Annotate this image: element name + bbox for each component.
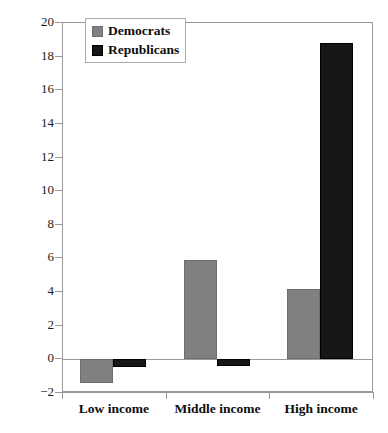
y-tick-mark (55, 291, 62, 292)
y-tick-label: 20 (18, 14, 54, 30)
x-axis-label-middle-income: Middle income (158, 401, 278, 417)
y-tick-mark (55, 157, 62, 158)
x-axis-separator (269, 392, 270, 399)
x-axis-line (62, 392, 373, 393)
y-tick-label: 0 (18, 350, 54, 366)
y-tick-label: 4 (18, 283, 54, 299)
y-tick-mark (55, 22, 62, 23)
y-tick-mark (55, 257, 62, 258)
plot-area (62, 22, 373, 392)
y-tick-label: 14 (18, 115, 54, 131)
y-tick-label: −2 (18, 384, 54, 400)
x-axis-label-high-income: High income (261, 401, 381, 417)
y-tick-label: 6 (18, 249, 54, 265)
bar-chart: Responsiveness (regression estimate) 201… (0, 0, 388, 433)
legend-swatch-democrats-icon (92, 26, 103, 37)
y-tick-label: 2 (18, 317, 54, 333)
y-tick-mark (55, 224, 62, 225)
x-axis-end-tick (62, 392, 63, 399)
bar-low-income-republicans (113, 359, 146, 367)
x-axis-separator (166, 392, 167, 399)
legend-label-democrats: Democrats (108, 23, 170, 39)
y-tick-label: 8 (18, 216, 54, 232)
bar-middle-income-democrats (184, 260, 217, 359)
x-axis-end-tick (373, 392, 374, 399)
bar-high-income-democrats (287, 289, 320, 360)
legend: Democrats Republicans (85, 18, 186, 63)
bar-low-income-democrats (80, 359, 113, 383)
y-tick-mark (55, 89, 62, 90)
y-tick-mark (55, 392, 62, 393)
y-tick-mark (55, 190, 62, 191)
x-axis-label-low-income: Low income (54, 401, 174, 417)
y-tick-label: 12 (18, 149, 54, 165)
y-tick-mark (55, 56, 62, 57)
bar-middle-income-republicans (217, 359, 250, 366)
y-tick-mark (55, 123, 62, 124)
legend-label-republicans: Republicans (108, 42, 179, 58)
y-tick-mark (55, 358, 62, 359)
y-tick-label: 10 (18, 182, 54, 198)
legend-item-republicans: Republicans (92, 41, 179, 59)
legend-item-democrats: Democrats (92, 22, 170, 40)
y-tick-mark (55, 325, 62, 326)
y-tick-label: 18 (18, 48, 54, 64)
legend-swatch-republicans-icon (92, 45, 103, 56)
y-tick-label: 16 (18, 81, 54, 97)
bar-high-income-republicans (320, 43, 353, 359)
